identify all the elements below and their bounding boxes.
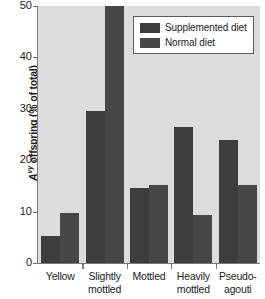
- x-axis-separator: [82, 264, 83, 269]
- y-tick-label: 50: [12, 0, 32, 11]
- x-axis-separator: [171, 264, 172, 269]
- x-tick-label-line: mottled: [171, 283, 215, 296]
- x-axis-separator: [127, 264, 128, 269]
- y-tick-label: 20: [12, 154, 32, 165]
- bar: [41, 236, 60, 263]
- x-tick-label-line: mottled: [82, 283, 126, 296]
- x-tick-label-line: Mottled: [127, 270, 171, 283]
- y-tick-mark: [33, 212, 37, 213]
- bar: [149, 185, 168, 263]
- x-axis-tick-labels: YellowSlightlymottledMottledHeavilymottl…: [38, 270, 260, 299]
- x-tick-label: Mottled: [127, 270, 171, 283]
- bar: [86, 111, 105, 263]
- y-tick-label: 30: [12, 103, 32, 114]
- legend-label-supplemented: Supplemented diet: [165, 22, 247, 33]
- y-tick-label: 0: [12, 257, 32, 268]
- bar: [193, 215, 212, 263]
- legend-label-normal: Normal diet: [165, 37, 215, 48]
- x-tick-label-line: Pseudo-: [216, 270, 260, 283]
- x-tick-label-line: Heavily: [171, 270, 215, 283]
- y-axis-tick-labels: 01020304050: [10, 0, 32, 299]
- x-axis-separator: [216, 264, 217, 269]
- x-tick-label: Yellow: [38, 270, 82, 283]
- x-axis-line: [37, 263, 260, 264]
- normal-swatch-icon: [140, 38, 160, 48]
- bar: [174, 127, 193, 263]
- x-tick-label-line: Slightly: [82, 270, 126, 283]
- y-tick-label: 10: [12, 206, 32, 217]
- bar-chart-figure: Avy offspring (% of total) 01020304050 Y…: [0, 0, 265, 299]
- bar: [105, 6, 124, 263]
- x-tick-label-line: agouti: [216, 283, 260, 296]
- y-tick-mark: [33, 160, 37, 161]
- x-tick-label: Slightlymottled: [82, 270, 126, 295]
- x-tick-label-line: Yellow: [38, 270, 82, 283]
- supplemented-swatch-icon: [140, 23, 160, 33]
- bar: [238, 185, 257, 263]
- chart-legend: Supplemented diet Normal diet: [133, 16, 254, 54]
- y-tick-mark: [33, 57, 37, 58]
- x-tick-label: Heavilymottled: [171, 270, 215, 295]
- bar: [219, 140, 238, 263]
- y-tick-label: 40: [12, 51, 32, 62]
- y-tick-mark: [33, 263, 37, 264]
- bar: [130, 188, 149, 263]
- bar: [60, 213, 79, 263]
- x-tick-label: Pseudo-agouti: [216, 270, 260, 295]
- y-tick-mark: [33, 6, 37, 7]
- y-tick-mark: [33, 109, 37, 110]
